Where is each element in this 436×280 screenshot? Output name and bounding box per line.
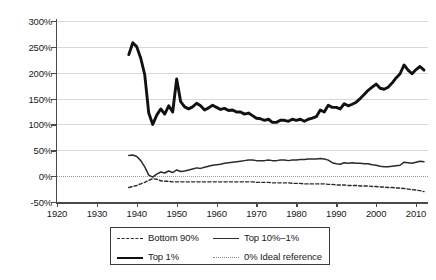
x-axis-tick-label: 1990: [326, 208, 346, 219]
chart-container: 300%250%200%150%100%50%0%-50% 1920193019…: [0, 0, 436, 280]
y-axis-tick-label: 100%: [29, 119, 53, 130]
legend-label-top-1: Top 1%: [148, 251, 179, 262]
x-axis-tick-label: 2000: [366, 208, 386, 219]
legend-item-top-10-1: Top 10%–1%: [213, 232, 337, 243]
y-axis-tick-label: 150%: [29, 93, 53, 104]
chart-legend: Bottom 90% Top 10%–1% Top 1% 0% Ideal re…: [110, 227, 330, 265]
legend-item-top-1: Top 1%: [117, 251, 213, 262]
x-axis-tick-label: 1960: [206, 208, 226, 219]
series-line: [129, 179, 424, 192]
x-axis-tick-label: 1940: [127, 208, 147, 219]
legend-swatch-solid-thin-icon: [213, 234, 239, 242]
y-axis-tick-label: -50%: [31, 197, 52, 208]
series-line: [129, 43, 424, 125]
x-axis-tick-label: 1930: [87, 208, 107, 219]
plot-area: [57, 21, 428, 202]
x-axis-tick-label: 1920: [47, 208, 67, 219]
x-axis-tick-label: 1970: [246, 208, 266, 219]
series-lines: [57, 21, 428, 202]
x-axis-line: [56, 202, 428, 204]
legend-swatch-dotted-icon: [213, 253, 239, 261]
y-axis-tick-label: 200%: [29, 67, 53, 78]
legend-swatch-solid-thick-icon: [117, 253, 143, 261]
legend-item-zero-reference: 0% Ideal reference: [213, 251, 337, 262]
y-axis-tick-label: 0%: [39, 171, 52, 182]
x-axis-tick-label: 2010: [406, 208, 426, 219]
series-line: [129, 155, 424, 177]
legend-label-zero-reference: 0% Ideal reference: [244, 251, 322, 262]
legend-label-top-10-1: Top 10%–1%: [244, 232, 299, 243]
y-axis-tick-label: 250%: [29, 41, 53, 52]
legend-item-bottom-90: Bottom 90%: [117, 232, 213, 243]
x-axis-tick-label: 1950: [167, 208, 187, 219]
x-axis-tick-label: 1980: [286, 208, 306, 219]
y-axis-tick-label: 50%: [34, 145, 52, 156]
legend-swatch-dashed-icon: [117, 234, 143, 242]
y-axis-tick-labels: 300%250%200%150%100%50%0%-50%: [0, 0, 52, 280]
y-axis-tick-label: 300%: [29, 16, 53, 27]
legend-label-bottom-90: Bottom 90%: [148, 232, 199, 243]
